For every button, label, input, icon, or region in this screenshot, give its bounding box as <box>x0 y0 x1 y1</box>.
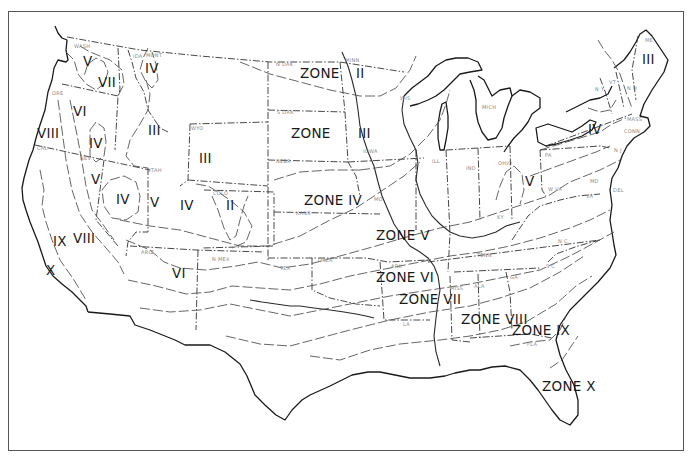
zone-label: V <box>150 194 160 210</box>
state-abbreviation: ME <box>645 37 653 43</box>
zone-label: ZONE IV <box>304 192 363 208</box>
state-abbreviation: N Y <box>595 86 605 92</box>
coastline-outline <box>22 26 668 425</box>
state-abbreviation: ALA <box>474 283 485 289</box>
zone-label: II <box>226 197 235 213</box>
state-abbreviation: DEL <box>613 187 624 193</box>
state-abbreviation: ILL <box>432 158 440 164</box>
zone-label: V <box>525 173 535 189</box>
state-abbreviation: S DAK <box>277 109 294 115</box>
state-abbreviation: MD <box>590 178 599 184</box>
state-abbreviation: MO <box>374 196 383 202</box>
zone-label: ZONE <box>291 125 331 141</box>
state-abbreviation: PA <box>545 152 552 158</box>
state-abbreviation: MONT <box>146 52 163 58</box>
zone-labels: VVIIIVVIVIIIIVIIIIIIVIVVIVIIIXVIIIXVIZON… <box>37 51 655 394</box>
state-abbreviation: IDA <box>133 53 143 59</box>
zone-label: III <box>199 150 212 166</box>
state-abbreviation: MISS <box>450 285 463 291</box>
zone-label: ZONE V <box>376 227 430 243</box>
zone-label: IV <box>89 135 103 151</box>
state-abbreviation: KANS <box>296 210 311 216</box>
zone-label: ZONE VII <box>399 291 461 307</box>
zone-label: IV <box>588 121 602 137</box>
zone-label: X <box>46 262 56 278</box>
state-abbreviation: CONN <box>624 128 640 134</box>
state-abbreviation: OHIO <box>498 160 512 166</box>
state-abbreviation: LA <box>403 321 410 327</box>
zone-label: IX <box>53 233 67 249</box>
zone-label: III <box>642 51 655 67</box>
zone-label: III <box>148 122 161 138</box>
state-abbreviation: CAL <box>37 145 48 151</box>
zone-label: IV <box>116 191 130 207</box>
state-abbreviation: N J <box>614 147 622 153</box>
state-abbreviation: ARIZ <box>141 249 154 255</box>
state-abbreviation: FLA <box>527 341 537 347</box>
zone-label: II <box>356 65 365 81</box>
state-abbreviation: S C <box>546 263 555 269</box>
state-abbreviation: N DAK <box>276 61 294 67</box>
state-abbreviation: IND <box>466 165 476 171</box>
zone-label: ZONE X <box>542 378 596 394</box>
zone-label: V <box>91 171 101 187</box>
state-abbreviation: NEBR <box>276 158 291 164</box>
state-abbreviation: VA <box>586 193 593 199</box>
zone-label: IV <box>145 60 159 76</box>
zone-label: VIII <box>73 230 95 246</box>
state-abbreviation: VT <box>609 79 617 85</box>
state-abbreviation: MASS <box>627 116 642 122</box>
zone-label: IV <box>180 197 194 213</box>
state-abbreviation: WASH <box>74 43 90 49</box>
zone-label: V <box>83 53 93 69</box>
state-abbreviation: IOWA <box>363 148 378 154</box>
state-abbreviation: COLO <box>213 190 228 196</box>
zone-label: ZONE <box>300 65 340 81</box>
us-decay-zone-map: VVIIIVVIVIIIIVIIIIIIVIVVIVIIIXVIIIXVIZON… <box>0 0 692 459</box>
state-abbreviation: OKLA <box>318 257 333 263</box>
zone-label: VIII <box>37 125 59 141</box>
state-abbreviation: MINN <box>345 57 359 63</box>
state-abbreviation: KY <box>497 214 504 220</box>
state-abbreviation: N H <box>627 85 637 91</box>
zone-label: VI <box>73 103 87 119</box>
state-abbreviation: WYO <box>191 125 204 131</box>
state-abbreviation: ARK <box>391 263 402 269</box>
state-abbreviation: UTAH <box>147 167 162 173</box>
zone-label: ZONE VI <box>376 269 434 285</box>
state-abbreviation: WIS <box>400 95 411 101</box>
state-abbreviation: TEX <box>279 265 291 271</box>
zone-label: ZONE IX <box>512 322 570 338</box>
state-abbreviation: MICH <box>482 104 496 110</box>
state-abbreviation: NEV <box>80 155 91 161</box>
state-abbreviation: ORE <box>52 90 63 96</box>
state-abbreviation: GA <box>510 274 518 280</box>
state-abbreviation: TENN <box>476 252 492 258</box>
state-abbreviation: N C <box>558 238 568 244</box>
zone-label: VI <box>172 265 186 281</box>
state-abbreviation: W VA <box>548 186 563 192</box>
state-abbreviation: N MEX <box>212 256 230 262</box>
zone-label: III <box>358 125 371 141</box>
zone-label: VII <box>98 74 116 90</box>
